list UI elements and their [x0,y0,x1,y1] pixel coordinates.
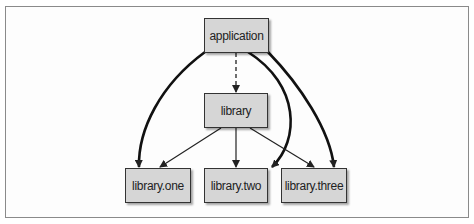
edge-application-library-three [268,52,334,167]
node-library-two: library.two [204,168,268,203]
node-label: application [209,29,263,43]
node-label: library.two [211,179,262,193]
node-library-one: library.one [125,168,191,203]
node-library-three: library.three [281,168,347,203]
node-label: library [221,104,252,118]
node-label: library.one [132,179,184,193]
edge-library-library-three [250,128,314,167]
edge-library-library-one [160,128,221,167]
node-application: application [204,18,269,53]
node-library: library [204,93,268,128]
node-label: library.three [285,179,344,193]
edge-application-library-one [139,52,205,167]
